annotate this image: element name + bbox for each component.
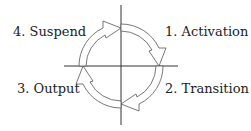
stage-label-output: 3. Output bbox=[17, 81, 80, 96]
stage-label-activation: 1. Activation bbox=[165, 24, 248, 39]
arrow-transition-icon bbox=[121, 66, 163, 111]
arrow-output-icon bbox=[76, 66, 121, 108]
stage-label-suspend: 4. Suspend bbox=[13, 24, 86, 39]
stage-label-transition: 2. Transition bbox=[165, 81, 249, 96]
arrow-activation-icon bbox=[121, 24, 166, 66]
cycle-diagram bbox=[0, 0, 251, 131]
